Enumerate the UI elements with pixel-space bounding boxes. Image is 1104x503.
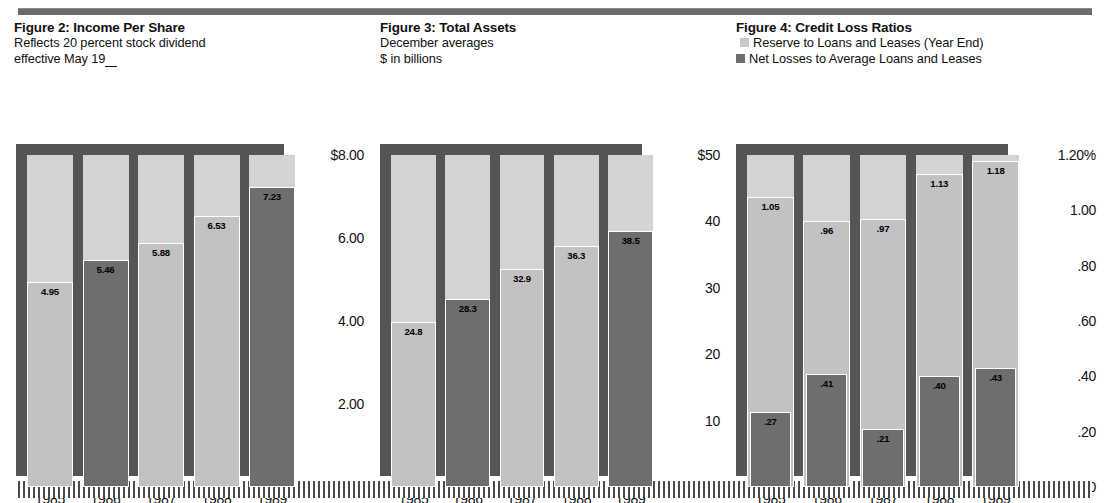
bar-columns: 1.05.27.96.41.97.211.13.401.18.43 xyxy=(747,155,1019,487)
blank-underline xyxy=(105,51,117,67)
bar-value-label: .43 xyxy=(976,372,1015,383)
y-axis: 1.20%1.00.80.60.40.200 xyxy=(1014,155,1096,487)
legend-swatch-dark-icon xyxy=(736,54,745,63)
figure-title: Figure 3: Total Assets xyxy=(380,20,720,35)
y-axis-tick-label: $8.00 xyxy=(330,147,364,163)
legend-item-net-losses: Net Losses to Average Loans and Leases xyxy=(736,51,1096,67)
bar: 38.5 xyxy=(608,231,653,487)
bar-value-label: 24.8 xyxy=(392,326,435,337)
figure-subtitle-line-1: Reflects 20 percent stock dividend xyxy=(14,35,366,51)
bar: .43 xyxy=(975,368,1016,487)
y-axis-tick-label: 1.00 xyxy=(1070,202,1096,218)
bar-columns: 4.955.465.886.537.23 xyxy=(27,155,295,487)
figure-credit-loss-ratios: Figure 4: Credit Loss Ratios Reserve to … xyxy=(736,20,1096,475)
y-axis-tick-label: 1.20% xyxy=(1058,147,1096,163)
figure-subtitle-line-2: $ in billions xyxy=(380,51,720,67)
y-axis-tick-label: .40 xyxy=(1077,368,1096,384)
figure-subtitle-line-2: effective May 19 xyxy=(14,51,366,67)
bar-value-label: .27 xyxy=(751,416,790,427)
bar: .21 xyxy=(862,429,903,487)
figure-income-per-share: Figure 2: Income Per Share Reflects 20 p… xyxy=(14,20,366,475)
bar-column: 38.5 xyxy=(608,155,653,487)
bar-value-label: 7.23 xyxy=(250,191,294,202)
y-axis-tick-label: .60 xyxy=(1077,313,1096,329)
plot-background: 24.828.332.936.338.5 xyxy=(380,144,642,476)
legend-label: Net Losses to Average Loans and Leases xyxy=(749,51,982,67)
bar: 5.46 xyxy=(83,260,129,487)
bar: 4.95 xyxy=(27,282,73,487)
bar-value-label: 5.88 xyxy=(139,247,183,258)
plot-background: 4.955.465.886.537.23 xyxy=(16,144,284,476)
bar-column: 1.05.27 xyxy=(747,155,794,487)
plot-background: 1.05.27.96.41.97.211.13.401.18.43 xyxy=(736,144,1008,476)
bar-value-label: .21 xyxy=(863,433,902,444)
y-axis-tick-label: 10 xyxy=(705,413,720,429)
figure-subtitle-text: effective May 19 xyxy=(14,51,105,66)
figure-total-assets: Figure 3: Total Assets December averages… xyxy=(380,20,720,475)
bar-value-label: 28.3 xyxy=(446,303,489,314)
bar: 7.23 xyxy=(249,187,295,487)
bar: 5.88 xyxy=(138,243,184,487)
bar: .41 xyxy=(806,374,847,487)
bar-column: 4.95 xyxy=(27,155,73,487)
bar-column: 36.3 xyxy=(554,155,599,487)
y-axis-tick-label: 4.00 xyxy=(338,313,364,329)
bar-column: 6.53 xyxy=(194,155,240,487)
y-axis-tick-label: 20 xyxy=(705,346,720,362)
top-rule xyxy=(18,8,1092,15)
legend-item-reserve: Reserve to Loans and Leases (Year End) xyxy=(736,35,1096,51)
y-axis-tick-label: 6.00 xyxy=(338,230,364,246)
y-axis: $50403020100 xyxy=(648,155,720,487)
bar-value-label: 32.9 xyxy=(501,273,544,284)
figures-page: Figure 2: Income Per Share Reflects 20 p… xyxy=(0,0,1104,503)
figure-subtitle-line-1: December averages xyxy=(380,35,720,51)
legend-swatch-light-icon xyxy=(740,38,749,47)
bar-value-label: 4.95 xyxy=(28,286,72,297)
bar: 24.8 xyxy=(391,322,436,487)
bar-value-label: 36.3 xyxy=(555,250,598,261)
bar-value-label: .97 xyxy=(861,223,906,234)
bar-column: .96.41 xyxy=(803,155,850,487)
bar: .27 xyxy=(750,412,791,487)
y-axis-tick-label: 30 xyxy=(705,280,720,296)
y-axis-tick-label: $50 xyxy=(698,147,720,163)
bar-column: 1.13.40 xyxy=(916,155,963,487)
bar-value-label: 6.53 xyxy=(195,220,239,231)
bar-value-label: 1.13 xyxy=(917,178,962,189)
bar-column: 1.18.43 xyxy=(972,155,1019,487)
y-axis: $8.006.004.002.000 xyxy=(290,155,364,487)
bar-column: 5.46 xyxy=(83,155,129,487)
bar-column: 7.23 xyxy=(249,155,295,487)
bar: 28.3 xyxy=(445,299,490,487)
bar-column: 28.3 xyxy=(445,155,490,487)
y-axis-tick-label: .80 xyxy=(1077,258,1096,274)
bar: 36.3 xyxy=(554,246,599,487)
bar-column: .97.21 xyxy=(860,155,907,487)
bar-value-label: .41 xyxy=(807,378,846,389)
legend-label: Reserve to Loans and Leases (Year End) xyxy=(753,35,984,51)
figure-title: Figure 4: Credit Loss Ratios xyxy=(736,20,1096,35)
figure-title: Figure 2: Income Per Share xyxy=(14,20,366,35)
bar-column: 5.88 xyxy=(138,155,184,487)
y-axis-tick-label: 2.00 xyxy=(338,396,364,412)
bar-column: 24.8 xyxy=(391,155,436,487)
y-axis-tick-label: .20 xyxy=(1077,424,1096,440)
bar-value-label: .96 xyxy=(804,225,849,236)
y-axis-tick-label: 40 xyxy=(705,213,720,229)
bar-value-label: 1.18 xyxy=(973,165,1018,176)
bar-value-label: .40 xyxy=(920,380,959,391)
bar: 32.9 xyxy=(500,269,545,487)
bar: .40 xyxy=(919,376,960,487)
bar-columns: 24.828.332.936.338.5 xyxy=(391,155,653,487)
bar-column: 32.9 xyxy=(500,155,545,487)
bar-value-label: 1.05 xyxy=(748,201,793,212)
bar-value-label: 38.5 xyxy=(609,235,652,246)
bar: 6.53 xyxy=(194,216,240,487)
bar-value-label: 5.46 xyxy=(84,264,128,275)
